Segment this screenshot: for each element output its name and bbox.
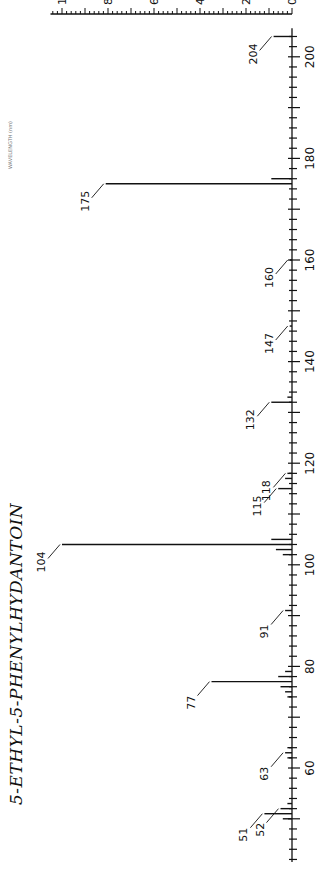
intensity-tick-label: 100	[56, 0, 69, 5]
peak-label: 51	[237, 828, 250, 842]
mz-tick-label: 200	[303, 45, 317, 68]
peak-label: 63	[258, 767, 271, 781]
mz-tick-label: 140	[303, 350, 317, 373]
mass-spectrum-plot: 6080100120140160180200020406080100 51526…	[0, 0, 322, 877]
peak-label: 147	[263, 333, 276, 354]
peak-labels: 5152637791104115118132147160175204	[35, 36, 288, 841]
peak-label: 118	[260, 480, 273, 501]
axes: 6080100120140160180200020406080100	[51, 0, 318, 862]
peak-label: 204	[247, 43, 260, 64]
peak-label: 132	[244, 409, 257, 430]
mz-tick-label: 60	[303, 760, 317, 775]
intensity-tick-label: 80	[102, 0, 115, 5]
mz-tick-label: 180	[303, 147, 317, 170]
intensity-tick-label: 0	[286, 0, 299, 5]
peak-label: 104	[35, 551, 48, 572]
mz-tick-label: 100	[303, 553, 317, 576]
intensity-tick-label: 60	[148, 0, 161, 5]
peak-label: 160	[263, 267, 276, 288]
mz-tick-label: 120	[303, 452, 317, 475]
peaks	[62, 36, 292, 818]
mz-tick-label: 160	[303, 249, 317, 272]
peak-label: 52	[254, 823, 267, 837]
intensity-tick-label: 20	[240, 0, 253, 5]
peak-label: 91	[258, 625, 271, 639]
intensity-tick-label: 40	[194, 0, 207, 5]
peak-label: 77	[185, 696, 198, 710]
mz-tick-label: 80	[303, 659, 317, 674]
peak-label: 175	[79, 191, 92, 212]
